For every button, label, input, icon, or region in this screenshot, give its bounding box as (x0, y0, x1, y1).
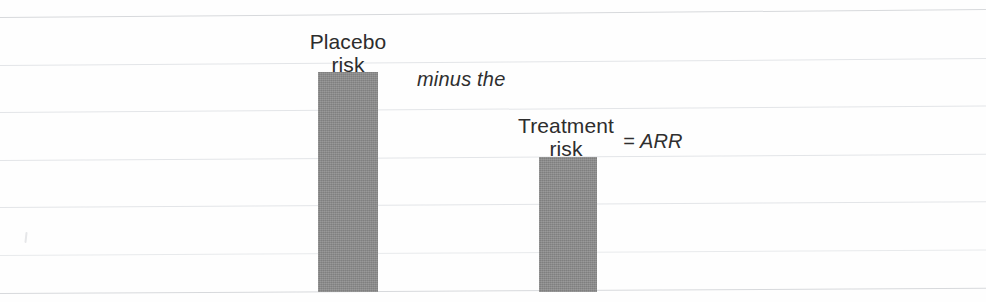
rule-line-2 (0, 58, 986, 66)
placebo-risk-label-line1: Placebo (310, 30, 387, 53)
rule-line-3 (0, 105, 986, 113)
minus-the-annotation: minus the (417, 68, 506, 91)
placebo-risk-label: Placebo risk (288, 30, 408, 76)
scan-speck (24, 232, 27, 243)
rule-line-1 (0, 9, 986, 18)
rule-line-6 (0, 249, 986, 256)
equals-arr-annotation: = ARR (623, 130, 683, 153)
scanned-chart-page: Placebo risk minus the Treatment risk = … (0, 0, 986, 302)
rule-line-4 (0, 154, 986, 161)
baseline-rule (0, 288, 986, 294)
treatment-risk-label: Treatment risk (506, 114, 626, 160)
placebo-risk-bar (318, 72, 378, 292)
rule-line-5 (0, 201, 986, 208)
treatment-risk-bar (539, 157, 597, 292)
treatment-risk-label-line1: Treatment (518, 114, 614, 137)
